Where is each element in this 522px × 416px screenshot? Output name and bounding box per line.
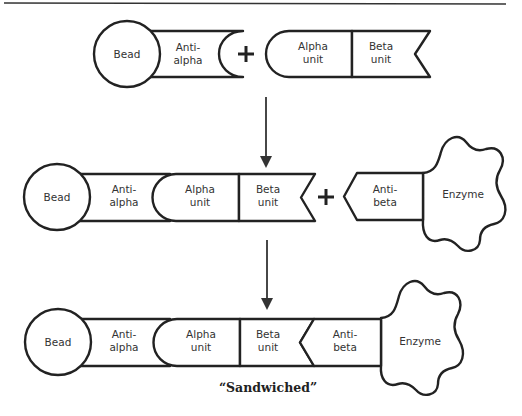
- row-3-enzyme-label: Enzyme: [399, 335, 441, 347]
- row-3-anti-alpha-label-line1: Anti-: [112, 328, 137, 340]
- row-2-enzyme-conjugate: Anti- beta Enzyme: [344, 137, 505, 251]
- row-2-anti-beta-label-line2: beta: [373, 196, 397, 208]
- row-3-beta-label-line1: Beta: [256, 328, 280, 340]
- row-2-alpha-label-line1: Alpha: [185, 183, 215, 195]
- row-1-plus-sign: [238, 46, 254, 62]
- row-1-anti-alpha-label-line1: Anti-: [176, 41, 201, 53]
- row-2-bead-antigen-complex: Bead Anti- alpha Alpha unit Beta unit: [24, 164, 315, 230]
- row-1-anti-alpha-label-line2: alpha: [173, 54, 202, 66]
- row-2-beta-label-line2: unit: [258, 196, 278, 208]
- arrow-down-1: [260, 97, 272, 168]
- row-1-beta-label-line1: Beta: [369, 40, 393, 52]
- row-1-beta-label-line2: unit: [371, 53, 391, 65]
- row-3-sandwich-complex: Bead Anti- alpha Alpha unit Beta unit An…: [25, 281, 463, 395]
- sandwich-assay-diagram: Bead Anti- alpha Alpha unit Beta unit Be…: [0, 0, 522, 416]
- row-1-bead-label: Bead: [114, 48, 141, 60]
- row-1-bead-complex: Bead Anti- alpha: [94, 21, 243, 87]
- top-rule: [4, 3, 506, 4]
- sandwiched-caption: “Sandwiched”: [219, 380, 317, 395]
- row-1-alpha-label-line1: Alpha: [298, 40, 328, 52]
- row-2-alpha-label-line2: unit: [190, 196, 210, 208]
- row-3-anti-alpha-label-line2: alpha: [109, 341, 138, 353]
- row-2-anti-beta-label-line1: Anti-: [373, 183, 398, 195]
- row-3-beta-label-line2: unit: [258, 341, 278, 353]
- row-2-beta-label-line1: Beta: [256, 183, 280, 195]
- row-2-anti-alpha-label-line1: Anti-: [112, 183, 137, 195]
- row-3-anti-beta-label-line1: Anti-: [333, 328, 358, 340]
- row-3-alpha-label-line1: Alpha: [186, 328, 216, 340]
- row-2-enzyme-label: Enzyme: [442, 188, 484, 200]
- row-2-anti-alpha-label-line2: alpha: [109, 196, 138, 208]
- row-1-antigen: Alpha unit Beta unit: [266, 31, 430, 77]
- row-3-anti-beta-label-line2: beta: [333, 341, 357, 353]
- row-3-alpha-label-line2: unit: [191, 341, 211, 353]
- row-1-alpha-label-line2: unit: [303, 53, 323, 65]
- arrow-down-2: [261, 240, 273, 310]
- row-2-bead-label: Bead: [44, 191, 71, 203]
- row-3-bead-label: Bead: [45, 336, 72, 348]
- row-2-plus-sign: [318, 189, 334, 205]
